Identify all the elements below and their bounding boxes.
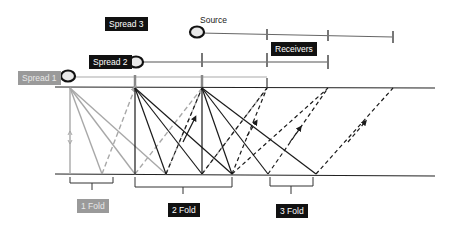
surface-line <box>55 87 435 88</box>
fold-brackets <box>70 177 313 194</box>
spread-3-label: Spread 3 <box>105 17 148 31</box>
rays-spread-3 <box>202 88 393 174</box>
spread-1-line <box>75 75 267 88</box>
source-label: Source <box>200 15 227 25</box>
fold-1-label: 1 Fold <box>77 199 109 213</box>
rays-spread-1 <box>68 88 267 174</box>
fold-diagram <box>0 0 450 231</box>
spread-1-label: Spread 1 <box>18 71 61 85</box>
source-icon <box>61 27 204 82</box>
fold-2-label: 2 Fold <box>168 203 200 217</box>
fold-3-label: 3 Fold <box>276 204 308 218</box>
spread-3-line <box>200 29 393 43</box>
reflector-line <box>55 174 435 176</box>
receivers-label: Receivers <box>271 42 317 56</box>
spread-2-label: Spread 2 <box>89 55 132 69</box>
